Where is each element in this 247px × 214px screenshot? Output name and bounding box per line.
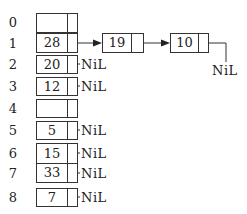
slot-key: 5 — [37, 122, 67, 139]
slot-key — [37, 100, 67, 117]
slot-key: 20 — [37, 56, 67, 73]
slot-key: 12 — [37, 78, 67, 95]
slot-index-2: 2 — [6, 55, 20, 74]
slot-8: 7 — [36, 188, 78, 207]
slot-pointer — [67, 100, 79, 117]
slot-pointer — [67, 14, 79, 32]
slot-key — [37, 14, 67, 32]
node-key: 10 — [171, 34, 198, 52]
slot-pointer — [67, 144, 79, 163]
slot-2: 20 — [36, 55, 78, 74]
slot-index-0: 0 — [6, 13, 20, 32]
slot-pointer — [67, 189, 79, 206]
slot-key: 15 — [37, 144, 67, 163]
slot-5: 5 — [36, 121, 78, 140]
nil-label-slot-8: NiL — [81, 190, 107, 205]
slot-7: 33 — [36, 163, 78, 183]
slot-6: 15 — [36, 143, 78, 164]
nil-label-slot-2: NiL — [81, 57, 107, 72]
slot-key: 7 — [37, 189, 67, 206]
slot-index-5: 5 — [6, 121, 20, 140]
nil-label-slot-5: NiL — [81, 123, 107, 138]
slot-3: 12 — [36, 77, 78, 96]
chain-node-19: 19 — [102, 33, 144, 53]
nil-label-chain-end: NiL — [212, 63, 238, 78]
slot-index-6: 6 — [6, 144, 20, 163]
node-pointer — [198, 34, 210, 52]
slot-1: 28 — [36, 33, 78, 53]
slot-index-8: 8 — [6, 188, 20, 207]
nil-label-slot-6: NiL — [81, 146, 107, 161]
node-pointer — [131, 34, 145, 52]
slot-pointer — [67, 56, 79, 73]
slot-key: 33 — [37, 164, 67, 182]
slot-key: 28 — [37, 34, 67, 52]
slot-index-3: 3 — [6, 77, 20, 96]
slot-4 — [36, 99, 78, 118]
nil-label-slot-7: NiL — [81, 166, 107, 181]
chain-node-10: 10 — [170, 33, 209, 53]
slot-0 — [36, 13, 78, 33]
slot-pointer — [67, 34, 79, 52]
slot-pointer — [67, 122, 79, 139]
slot-pointer — [67, 164, 79, 182]
slot-index-7: 7 — [6, 164, 20, 183]
slot-index-1: 1 — [6, 34, 20, 53]
node-key: 19 — [103, 34, 131, 52]
slot-index-4: 4 — [6, 99, 20, 118]
nil-label-slot-3: NiL — [81, 79, 107, 94]
slot-pointer — [67, 78, 79, 95]
